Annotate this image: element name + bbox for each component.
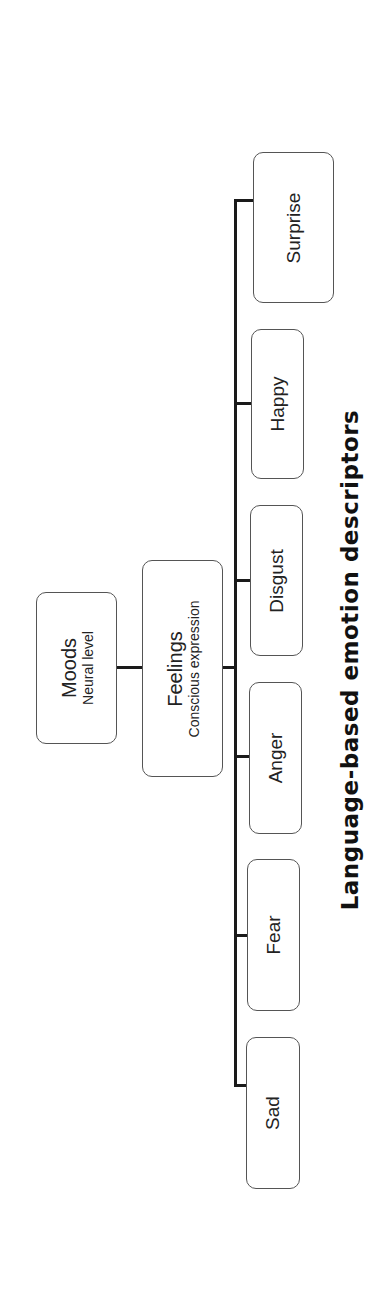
leaf-label: Anger xyxy=(265,733,287,784)
connector-anger xyxy=(236,755,250,758)
leaf-label: Disgust xyxy=(266,549,288,612)
leaf-label: Fear xyxy=(263,915,285,954)
moods-text: Moods Neural level xyxy=(58,631,96,705)
leaf-label: Happy xyxy=(267,377,289,432)
connector-happy xyxy=(236,402,252,405)
moods-subtitle: Neural level xyxy=(80,631,96,705)
connector-surprise xyxy=(234,199,254,202)
leaf-label: Sad xyxy=(262,1096,284,1130)
leaf-fear: Fear xyxy=(247,859,300,1011)
feelings-title: Feelings xyxy=(164,600,186,737)
leaf-happy: Happy xyxy=(251,329,304,479)
leaf-label: Surprise xyxy=(283,192,305,263)
leaf-anger: Anger xyxy=(249,682,302,834)
moods-title: Moods xyxy=(58,631,80,705)
leaf-surprise: Surprise xyxy=(253,152,334,303)
trunk-line xyxy=(234,199,237,1087)
feelings-subtitle: Conscious expression xyxy=(186,600,202,737)
moods-node: Moods Neural level xyxy=(36,592,117,744)
diagram-caption: Language-based emotion descriptors xyxy=(337,410,363,911)
connector-disgust xyxy=(236,579,251,582)
feelings-node: Feelings Conscious expression xyxy=(142,560,223,777)
feelings-text: Feelings Conscious expression xyxy=(164,600,202,737)
connector-moods-feelings xyxy=(116,666,143,669)
leaf-sad: Sad xyxy=(246,1037,300,1189)
leaf-disgust: Disgust xyxy=(250,505,303,656)
